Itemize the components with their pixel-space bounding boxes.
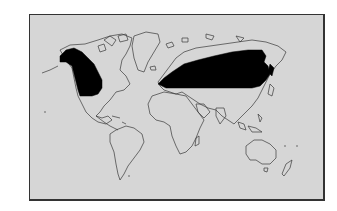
distribution-ranges [60,48,274,96]
new-zealand-outline [282,160,292,176]
arctic-islands-outline [98,34,128,52]
australia-outline [246,140,276,164]
range-eurasia [158,50,270,88]
range-north-america [60,48,102,96]
india-outline [216,108,226,124]
world-map [0,0,337,211]
greenland-outline [132,32,160,72]
japan-outline [268,84,274,96]
arctic-eurasia-islands-outline [166,34,244,48]
tasmania-outline [264,168,268,172]
caribbean-outline [112,116,126,124]
iceland-outline [150,66,156,70]
south-america-outline [110,126,144,180]
aleutian-outline [42,66,58,73]
madagascar-outline [195,136,199,146]
arabia-outline [196,104,210,118]
